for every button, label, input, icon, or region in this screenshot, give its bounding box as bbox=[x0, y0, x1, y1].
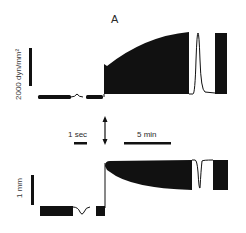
tension-scale-bar bbox=[29, 48, 32, 86]
length-scale-label: 1 mm bbox=[15, 178, 24, 198]
trace-figure bbox=[0, 0, 246, 233]
tension-scale-label: 2000 dyn/mm² bbox=[14, 49, 23, 100]
time-scale-label-fast: 1 sec bbox=[68, 130, 87, 139]
length-scale-bar bbox=[31, 175, 34, 205]
time-scale-bar-5min bbox=[124, 142, 171, 145]
figure-panel-a: A 2000 dyn/mm² 1 mm 1 sec 5 min bbox=[0, 0, 246, 233]
panel-label: A bbox=[111, 13, 118, 25]
time-scale-bar-1sec bbox=[74, 142, 87, 145]
stimulus-arrow-icon bbox=[103, 116, 108, 145]
time-scale-label-slow: 5 min bbox=[137, 130, 157, 139]
tension-trace bbox=[29, 32, 227, 99]
length-trace bbox=[31, 160, 228, 216]
